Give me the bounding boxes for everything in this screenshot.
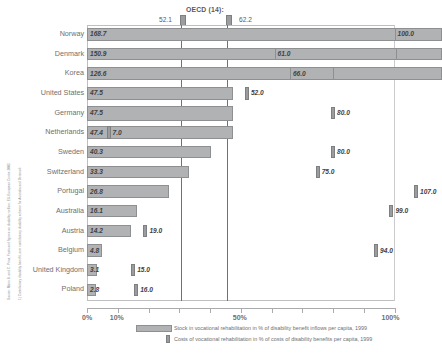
country-label: United Kingdom — [33, 265, 84, 274]
stock-bar-value: 4.8 — [90, 247, 99, 254]
bar-row: United States47.552.0 — [0, 84, 442, 104]
costs-bar — [245, 87, 249, 99]
costs-bar-value: 80.0 — [337, 148, 350, 155]
x-axis-tick — [302, 308, 303, 313]
stock-bar-value: 14.2 — [90, 227, 103, 234]
costs-bar — [331, 107, 335, 119]
stock-bar-value: 26.8 — [90, 188, 103, 195]
stock-bar-value: 150.9 — [90, 50, 107, 57]
country-label: Switzerland — [47, 167, 84, 176]
bar-row: Norway168.7100.0 — [0, 25, 442, 45]
costs-bar-value: 80.0 — [337, 109, 350, 116]
costs-bar-value: 94.0 — [380, 247, 393, 254]
x-axis-tick — [364, 308, 365, 313]
costs-bar — [389, 205, 393, 217]
stock-bar-value: 47.5 — [90, 89, 103, 96]
legend-label-costs: Costs of vocational rehabilitation in % … — [174, 336, 372, 342]
legend-swatch-stock-icon — [136, 325, 172, 332]
costs-bar — [275, 48, 397, 60]
stock-bar-value: 126.6 — [90, 70, 107, 77]
costs-bar — [134, 284, 138, 296]
bar-row: Netherlands47.47.0 — [0, 123, 442, 143]
costs-bar — [107, 126, 111, 138]
costs-bar-value: 7.0 — [113, 129, 122, 136]
stock-bar — [87, 67, 442, 79]
country-label: Portugal — [57, 186, 84, 195]
bar-row: Australia16.199.0 — [0, 202, 442, 222]
bar-row: Portugal26.8107.0 — [0, 182, 442, 202]
bar-row: United Kingdom3.115.0 — [0, 261, 442, 281]
costs-bar — [331, 146, 335, 158]
bar-row: Germany47.580.0 — [0, 104, 442, 124]
oecd-stock-average-value: 52.1 — [159, 16, 172, 23]
bar-row: Switzerland33.375.0 — [0, 163, 442, 183]
costs-bar-value: 15.0 — [137, 266, 150, 273]
x-axis-tick — [87, 308, 88, 313]
stock-bar — [87, 146, 211, 158]
bar-row: Poland2.816.0 — [0, 280, 442, 300]
bar-row: Belgium4.894.0 — [0, 241, 442, 261]
stock-bar — [87, 106, 233, 121]
costs-bar-value: 19.0 — [149, 227, 162, 234]
costs-bar-value: 99.0 — [395, 207, 408, 214]
costs-bar-value: 61.0 — [278, 50, 291, 57]
stock-bar-value: 40.3 — [90, 148, 103, 155]
costs-bar — [316, 166, 320, 178]
country-label: Poland — [62, 284, 84, 293]
x-axis-tick — [241, 308, 242, 313]
costs-bar — [374, 244, 378, 256]
x-axis-tick — [395, 308, 396, 313]
stock-bar-value: 3.1 — [90, 266, 99, 273]
country-label: Norway — [60, 29, 84, 38]
bar-row: Austria14.219.0 — [0, 222, 442, 242]
costs-bar-value: 52.0 — [251, 89, 264, 96]
country-label: Sweden — [58, 147, 84, 156]
oecd-costs-average-value: 62.2 — [239, 16, 252, 23]
costs-bar — [414, 185, 418, 197]
oecd-average-title: OECD (14): — [186, 6, 224, 13]
costs-bar-value: 107.0 — [420, 188, 437, 195]
x-axis-tick — [210, 308, 211, 313]
x-axis-tick — [179, 308, 180, 313]
costs-bar — [131, 264, 135, 276]
country-label: Denmark — [55, 49, 84, 58]
stock-bar-value: 2.8 — [90, 286, 99, 293]
country-label: United States — [41, 88, 84, 97]
x-axis-tick — [333, 308, 334, 313]
x-axis-tick-label: 50% — [233, 314, 247, 321]
x-axis-tick-label: 100% — [382, 314, 400, 321]
costs-bar-value: 16.0 — [140, 286, 153, 293]
vocational-rehabilitation-chart: Source: Marin B. and C. Prinz, Facts and… — [0, 0, 442, 356]
x-axis-tick-label: 10% — [110, 314, 124, 321]
stock-bar-value: 47.5 — [90, 109, 103, 116]
stock-bar-value: 168.7 — [90, 30, 107, 37]
bar-row: Sweden40.380.0 — [0, 143, 442, 163]
x-axis-tick-label: 0% — [82, 314, 92, 321]
country-label: Germany — [54, 108, 84, 117]
bar-row: Denmark150.961.0 — [0, 45, 442, 65]
bar-row: Korea126.666.0 — [0, 64, 442, 84]
costs-bar-value: 75.0 — [322, 168, 335, 175]
x-axis-tick — [149, 308, 150, 313]
costs-bar-value: 100.0 — [398, 30, 415, 37]
legend-label-stock: Stock in vocational rehabilitation in % … — [174, 325, 367, 331]
country-label: Australia — [56, 206, 84, 215]
country-label: Belgium — [58, 245, 84, 254]
country-label: Netherlands — [45, 127, 84, 136]
stock-bar — [87, 28, 442, 40]
stock-bar-value: 16.1 — [90, 207, 103, 214]
country-label: Korea — [65, 68, 84, 77]
x-axis-tick — [118, 308, 119, 313]
costs-bar — [143, 225, 147, 237]
stock-bar-value: 47.4 — [90, 129, 103, 136]
costs-bar-value: 66.0 — [293, 70, 306, 77]
legend-swatch-costs-icon — [166, 335, 170, 343]
stock-bar-value: 33.3 — [90, 168, 103, 175]
stock-bar — [87, 87, 233, 99]
x-axis-tick — [272, 308, 273, 313]
country-label: Austria — [62, 226, 84, 235]
